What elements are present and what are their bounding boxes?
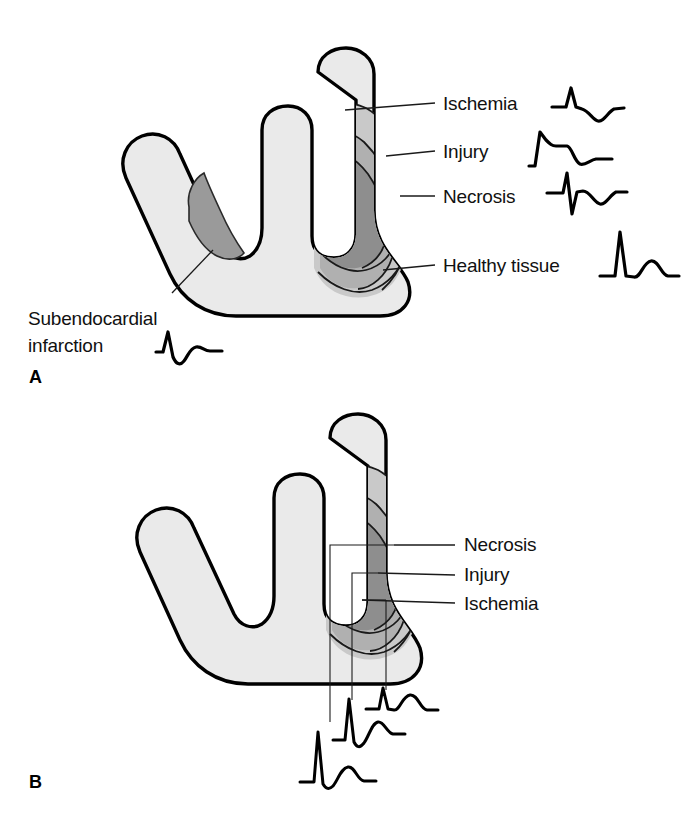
label-ischemia-b: Ischemia — [464, 593, 539, 614]
necrosis-ecg — [547, 173, 627, 214]
injury-probe-ecg — [333, 699, 405, 747]
label-ischemia-a: Ischemia — [443, 93, 518, 114]
ischemia-ecg — [552, 88, 624, 121]
panel-b: Necrosis Injury Ischemia B — [29, 414, 539, 792]
injury-ecg — [529, 132, 612, 166]
label-injury-a: Injury — [443, 141, 489, 162]
label-healthy-tissue-a: Healthy tissue — [443, 255, 560, 276]
subendocardial-infarction-ecg — [156, 332, 222, 364]
label-necrosis-a: Necrosis — [443, 186, 515, 207]
caption-subendocardial-line2: infarction — [28, 335, 103, 356]
figure-root: Ischemia Injury Necrosis Healthy tissue … — [0, 0, 687, 826]
zone-necrosis-a — [322, 151, 386, 268]
zone-bands-a — [314, 100, 413, 297]
healthy-tissue-ecg — [600, 232, 679, 277]
panel-a: Ischemia Injury Necrosis Healthy tissue … — [28, 48, 679, 387]
ischemia-probe-ecg — [366, 688, 438, 710]
label-necrosis-b: Necrosis — [464, 534, 536, 555]
myocardium-ecg-figure: Ischemia Injury Necrosis Healthy tissue … — [0, 0, 687, 826]
panel-letter-b: B — [29, 772, 42, 792]
panel-letter-a: A — [29, 367, 42, 387]
caption-subendocardial-line1: Subendocardial — [28, 308, 157, 329]
leader-line-injury-a — [386, 151, 435, 156]
label-injury-b: Injury — [464, 564, 510, 585]
leader-line-injury-b — [378, 573, 455, 575]
